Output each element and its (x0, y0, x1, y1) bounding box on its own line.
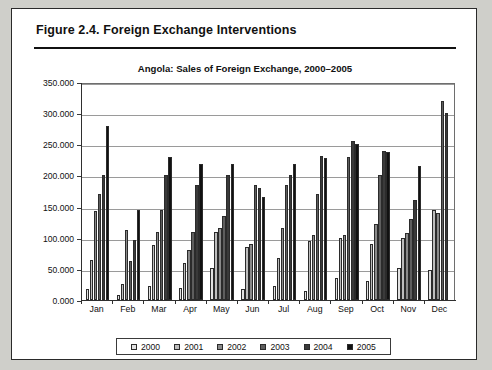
x-axis-tick (237, 300, 238, 304)
y-axis-tick-label: 150.000 (4, 203, 74, 213)
bar (222, 216, 225, 300)
legend-item[interactable]: 2005 (347, 342, 376, 352)
bar (125, 230, 128, 300)
bar (347, 157, 350, 300)
x-axis-tick (175, 300, 176, 304)
y-axis-line (81, 83, 82, 301)
x-axis-tick (424, 300, 425, 304)
bar-group (179, 84, 203, 300)
x-axis-tick (143, 300, 144, 304)
bar (258, 188, 261, 300)
bar (231, 164, 234, 300)
bar (254, 185, 257, 300)
legend-item[interactable]: 2001 (174, 342, 203, 352)
bar (324, 158, 327, 300)
bar (405, 233, 408, 300)
bar (273, 286, 276, 300)
bar (374, 224, 377, 300)
bar (94, 211, 97, 300)
bar (343, 235, 346, 300)
bar (281, 228, 284, 300)
legend-swatch (260, 344, 266, 350)
plot-region (81, 83, 455, 301)
y-axis-tick-label: 200.000 (4, 171, 74, 181)
bar (397, 268, 400, 300)
bar-group (366, 84, 390, 300)
bar (129, 261, 132, 300)
bar-group (148, 84, 172, 300)
bar-group (117, 84, 141, 300)
legend-item[interactable]: 2003 (260, 342, 289, 352)
figure-card: Figure 2.4. Foreign Exchange Interventio… (11, 8, 477, 360)
bar (86, 289, 89, 300)
bar (210, 268, 213, 300)
bar (370, 244, 373, 300)
legend-item[interactable]: 2002 (217, 342, 246, 352)
bar (304, 291, 307, 300)
legend-swatch (347, 344, 353, 350)
bar (382, 151, 385, 300)
screenshot-page: Figure 2.4. Foreign Exchange Interventio… (0, 0, 492, 370)
y-axis-tick-label: 300.000 (4, 109, 74, 119)
legend-swatch (174, 344, 180, 350)
bar (191, 232, 194, 301)
legend-label: 2002 (227, 342, 246, 352)
bar (351, 141, 354, 300)
bar (441, 101, 444, 300)
x-axis-tick (268, 300, 269, 304)
x-axis-tick (362, 300, 363, 304)
x-axis-tick (206, 300, 207, 304)
bar (262, 197, 265, 300)
bar-group (210, 84, 234, 300)
bar (245, 247, 248, 300)
bar (98, 194, 101, 300)
bar (133, 240, 136, 300)
bar (293, 164, 296, 300)
legend-swatch (131, 344, 137, 350)
bar (428, 270, 431, 300)
bar (199, 164, 202, 300)
y-axis-tick-label: 50.000 (4, 265, 74, 275)
bar (121, 284, 124, 300)
legend-item[interactable]: 2000 (131, 342, 160, 352)
legend-item[interactable]: 2004 (304, 342, 333, 352)
bar (214, 232, 217, 301)
bar-group (86, 84, 110, 300)
bar-group (428, 84, 452, 300)
y-axis-tick-label: 250.000 (4, 140, 74, 150)
bar-group (273, 84, 297, 300)
bar (277, 258, 280, 300)
bar (152, 245, 155, 300)
y-axis-tick-label: 0.000 (4, 296, 74, 306)
legend-label: 2004 (314, 342, 333, 352)
bar-group (241, 84, 265, 300)
bar (241, 289, 244, 300)
bar (436, 213, 439, 300)
bar (289, 175, 292, 300)
bar (312, 235, 315, 300)
x-axis-tick (393, 300, 394, 304)
bar (164, 175, 167, 300)
x-axis-tick (330, 300, 331, 304)
bar (187, 250, 190, 300)
x-axis-tick (112, 300, 113, 304)
bar (339, 238, 342, 300)
bar (445, 113, 448, 300)
bar (156, 232, 159, 301)
legend-label: 2001 (184, 342, 203, 352)
y-axis-tick-label: 350.000 (4, 78, 74, 88)
bar (401, 238, 404, 300)
bar (378, 175, 381, 300)
legend-swatch (304, 344, 310, 350)
bar (316, 194, 319, 300)
bar (249, 244, 252, 300)
bar (386, 152, 389, 300)
legend-label: 2003 (270, 342, 289, 352)
bar (218, 228, 221, 300)
x-axis-tick (299, 300, 300, 304)
legend-swatch (217, 344, 223, 350)
chart-legend: 200020012002200320042005 (116, 338, 391, 355)
bar (285, 185, 288, 300)
bar-group (335, 84, 359, 300)
bar (179, 288, 182, 300)
